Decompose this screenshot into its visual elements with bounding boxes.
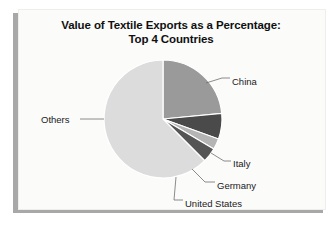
pie-slice-group [104,60,222,178]
pie-label-united-states: United States [185,198,242,209]
pie-chart-screenshot: Value of Textile Exports as a Percentage… [0,0,335,235]
pie-label-germany: Germany [217,180,256,191]
leader-line-germany [192,169,215,182]
pie-slice-china [163,60,222,119]
leader-line-china [206,78,230,83]
pie-label-china: China [232,76,257,87]
leader-line-italy [211,153,231,161]
pie-label-italy: Italy [233,158,250,169]
pie-label-others: Others [41,114,70,125]
leader-line-united-states [174,177,183,200]
